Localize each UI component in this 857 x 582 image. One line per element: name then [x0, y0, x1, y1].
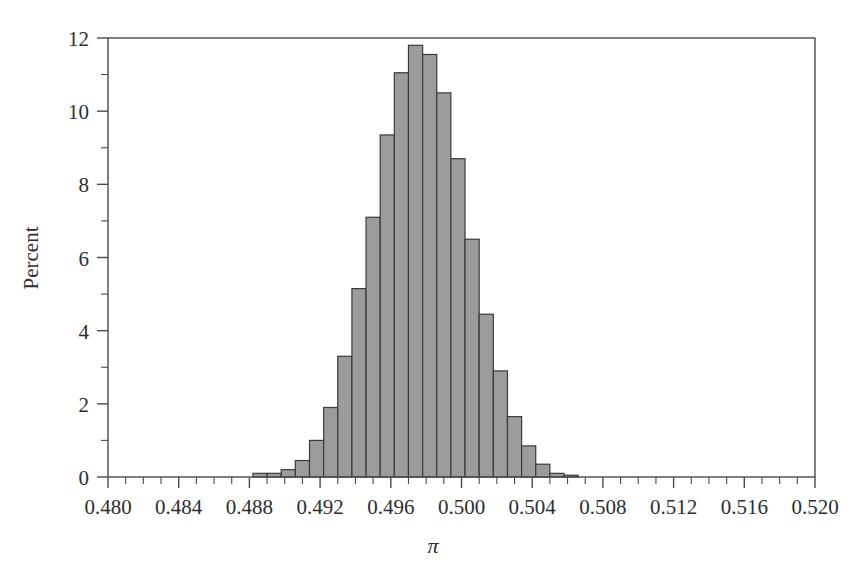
x-tick-label: 0.512	[650, 495, 697, 519]
x-axis-tick-labels: 0.4800.4840.4880.4920.4960.5000.5040.508…	[84, 495, 838, 519]
histogram-bar	[281, 470, 295, 477]
x-tick-label: 0.508	[579, 495, 626, 519]
y-tick-label: 2	[79, 393, 90, 417]
y-tick-label: 8	[79, 173, 90, 197]
y-tick-label: 4	[79, 320, 90, 344]
histogram-bar	[493, 371, 507, 477]
x-tick-label: 0.480	[84, 495, 131, 519]
x-tick-label: 0.488	[226, 495, 273, 519]
x-tick-label: 0.500	[438, 495, 485, 519]
x-tick-label: 0.496	[367, 495, 414, 519]
histogram-bar	[507, 417, 521, 477]
histogram-bar	[295, 461, 309, 477]
histogram-bar	[324, 407, 338, 477]
histogram-bar	[394, 73, 408, 477]
histogram-bar	[451, 159, 465, 477]
histogram-bar	[338, 356, 352, 477]
histogram-bar	[437, 93, 451, 477]
histogram-bar	[310, 440, 324, 477]
x-tick-label: 0.492	[296, 495, 343, 519]
histogram-figure: 0.4800.4840.4880.4920.4960.5000.5040.508…	[0, 0, 857, 582]
histogram-bar	[352, 289, 366, 477]
histogram-bar	[465, 239, 479, 477]
y-tick-label: 10	[68, 100, 89, 124]
y-axis-title: Percent	[19, 226, 43, 289]
y-tick-label: 12	[68, 27, 89, 51]
histogram-bar	[479, 314, 493, 477]
x-axis-title: π	[427, 533, 439, 558]
histogram-bar	[522, 446, 536, 477]
y-tick-label: 6	[79, 247, 90, 271]
histogram-chart: 0.4800.4840.4880.4920.4960.5000.5040.508…	[0, 0, 857, 582]
histogram-bar	[408, 45, 422, 477]
histogram-bar	[380, 135, 394, 477]
histogram-bar	[423, 54, 437, 477]
x-tick-label: 0.504	[509, 495, 557, 519]
histogram-bar	[366, 217, 380, 477]
x-tick-label: 0.516	[721, 495, 768, 519]
histogram-bar	[536, 464, 550, 477]
x-tick-label: 0.520	[791, 495, 838, 519]
x-tick-label: 0.484	[155, 495, 203, 519]
y-tick-label: 0	[79, 466, 90, 490]
